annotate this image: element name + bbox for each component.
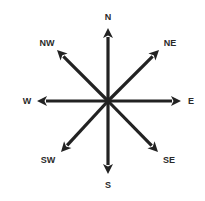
compass-rose: N NE E SE S SW W NW	[0, 0, 205, 201]
label-southeast: SE	[163, 156, 175, 165]
label-west: W	[23, 97, 32, 106]
label-northeast: NE	[164, 39, 177, 48]
compass-center	[105, 98, 111, 104]
arrowhead-north-icon	[103, 28, 113, 38]
arrow-shaft-southwest	[67, 101, 108, 145]
arrowhead-east-icon	[171, 96, 181, 106]
label-northwest: NW	[40, 39, 55, 48]
label-southwest: SW	[41, 156, 56, 165]
arrowhead-south-icon	[103, 164, 113, 174]
arrow-shaft-southeast	[108, 101, 152, 146]
arrow-shaft-northwest	[63, 56, 108, 101]
label-east: E	[188, 97, 194, 106]
arrow-shaft-northeast	[108, 56, 153, 101]
arrowhead-west-icon	[37, 96, 47, 106]
label-north: N	[105, 13, 112, 22]
label-south: S	[105, 181, 111, 190]
